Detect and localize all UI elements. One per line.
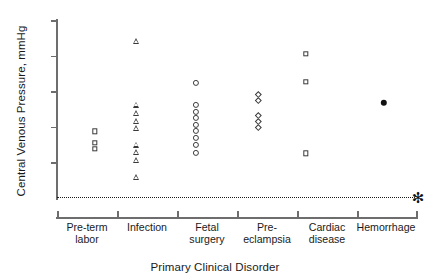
data-point xyxy=(133,174,139,180)
data-point xyxy=(193,102,199,108)
asterisk-marker: ✻ xyxy=(412,194,425,202)
data-point xyxy=(133,157,139,163)
y-axis-title: Central Venous Pressure, mmHg xyxy=(15,6,27,216)
data-point xyxy=(303,150,308,155)
x-category-hemorrhage: Hemorrhage xyxy=(349,222,423,234)
x-tick-2 xyxy=(177,211,179,217)
x-category-cardiac-disease: Cardiac disease xyxy=(297,222,357,245)
y-tick-25 xyxy=(51,20,56,22)
x-category-infection: Infection xyxy=(117,222,177,234)
data-point xyxy=(303,51,308,56)
reference-line xyxy=(57,197,415,198)
data-point xyxy=(303,79,308,84)
y-tick-15 xyxy=(51,91,56,93)
data-point xyxy=(133,125,139,131)
data-point xyxy=(193,128,199,134)
x-axis-line xyxy=(56,217,418,219)
data-point xyxy=(92,140,97,145)
x-axis-title: Primary Clinical Disorder xyxy=(0,261,430,273)
data-point xyxy=(133,38,139,44)
x-category-pre-term-labor: Pre-term labor xyxy=(57,222,117,245)
x-tick-6 xyxy=(416,211,418,217)
data-point xyxy=(255,97,261,103)
x-category-pre-eclampsia: Pre- eclampsia xyxy=(235,222,299,245)
y-tick-5 xyxy=(51,162,56,164)
data-point xyxy=(92,146,97,151)
x-tick-1 xyxy=(117,211,119,217)
x-tick-4 xyxy=(297,211,299,217)
data-point xyxy=(193,142,199,148)
data-point xyxy=(133,142,139,148)
y-tick-10 xyxy=(51,127,56,129)
data-point xyxy=(133,102,139,108)
data-point xyxy=(193,134,199,140)
data-point xyxy=(92,129,97,134)
x-tick-0 xyxy=(57,211,59,217)
data-point xyxy=(193,150,199,156)
data-point xyxy=(133,118,139,124)
data-point xyxy=(193,80,199,86)
x-category-fetal-surgery: Fetal surgery xyxy=(177,222,237,245)
data-point xyxy=(133,149,139,155)
x-tick-3 xyxy=(237,211,239,217)
data-point xyxy=(255,124,261,130)
data-point xyxy=(193,109,199,115)
data-point xyxy=(193,115,199,121)
y-axis-line xyxy=(56,19,58,200)
scatter-chart: Central Venous Pressure, mmHg 25 20 15 1… xyxy=(0,0,430,279)
data-point xyxy=(193,122,199,128)
data-point xyxy=(133,110,139,116)
x-tick-5 xyxy=(357,211,359,217)
y-tick-20 xyxy=(51,56,56,58)
data-point xyxy=(381,99,387,105)
